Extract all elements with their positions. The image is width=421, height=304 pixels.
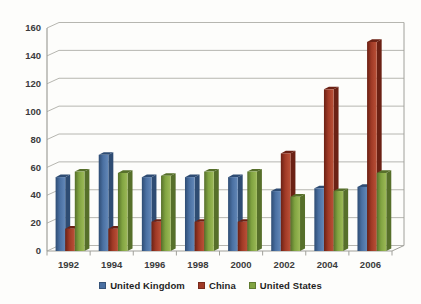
gridline-100	[47, 106, 404, 112]
x-tick-label-2002: 2002	[274, 259, 295, 270]
bar-china-2000	[238, 222, 248, 251]
x-tick-label-1996: 1996	[144, 259, 165, 270]
bar-united-states-2002-side	[300, 194, 305, 251]
x-tick-label-1998: 1998	[187, 259, 208, 270]
bar-united-kingdom-2004	[314, 188, 324, 251]
bar-united-states-2002	[290, 197, 300, 251]
bar-united-states-2006-side	[386, 170, 391, 251]
y-tick-label-0: 0	[36, 245, 41, 256]
gridline-120	[47, 78, 404, 84]
bar-united-states-1998	[204, 172, 214, 251]
y-tick-label-140: 140	[25, 50, 41, 61]
gridline-160	[47, 23, 404, 29]
bar-united-states-2000	[247, 172, 257, 251]
bar-china-2004	[324, 89, 334, 251]
bar-united-states-1996	[161, 176, 171, 251]
gridline-80	[47, 134, 404, 140]
y-tick-label-40: 40	[30, 189, 41, 200]
bar-united-kingdom-2002	[271, 191, 281, 251]
x-tick-label-2004: 2004	[317, 259, 339, 270]
bar-united-kingdom-1996	[142, 177, 152, 251]
bar-china-1992	[65, 229, 75, 251]
y-tick-label-80: 80	[30, 134, 41, 145]
legend-label-china: China	[209, 280, 236, 291]
bar-united-kingdom-1994	[99, 155, 109, 251]
x-tick-label-2006: 2006	[360, 259, 381, 270]
bar-china-1994	[108, 229, 118, 251]
bar-china-2006	[367, 42, 377, 251]
x-tick-label-2000: 2000	[230, 259, 251, 270]
legend-label-united-kingdom: United Kingdom	[110, 280, 185, 291]
x-tick-label-1994: 1994	[101, 259, 123, 270]
bar-united-kingdom-2006	[357, 187, 367, 251]
bar-united-states-1992-side	[84, 169, 89, 251]
chart-figure: 0204060801001201401601992199419961998200…	[0, 0, 421, 304]
gridline-140	[47, 50, 404, 56]
bar-united-kingdom-2000	[228, 177, 238, 251]
legend-label-united-states: United States	[260, 280, 322, 291]
floor-right-edge	[392, 246, 404, 252]
y-tick-label-120: 120	[25, 78, 41, 89]
y-tick-label-20: 20	[30, 217, 41, 228]
bar-united-kingdom-1998	[185, 177, 195, 251]
bar-united-states-1994	[118, 173, 128, 251]
bar-china-1998	[195, 222, 205, 251]
legend-swatch-china	[198, 282, 205, 289]
legend-swatch-united-kingdom	[99, 282, 106, 289]
bar-chart: 0204060801001201401601992199419961998200…	[0, 0, 421, 304]
y-tick-label-160: 160	[25, 22, 41, 33]
bar-united-states-2000-side	[257, 169, 262, 251]
y-tick-label-100: 100	[25, 106, 41, 117]
bar-united-states-1998-side	[214, 169, 219, 251]
bar-united-kingdom-1992	[56, 177, 66, 251]
bar-united-states-1996-side	[171, 173, 176, 251]
legend-item-china: China	[198, 280, 236, 291]
bar-united-states-2004	[334, 191, 344, 251]
chart-legend: United Kingdom China United States	[0, 280, 421, 291]
legend-swatch-united-states	[249, 282, 256, 289]
bar-united-states-1992	[75, 172, 85, 251]
bar-united-states-2004-side	[343, 188, 348, 251]
bar-united-states-2006	[377, 173, 387, 251]
x-tick-label-1992: 1992	[58, 259, 79, 270]
bar-china-1996	[151, 222, 161, 251]
bar-united-states-1994-side	[128, 170, 133, 251]
legend-item-united-states: United States	[249, 280, 322, 291]
y-tick-label-60: 60	[30, 162, 41, 173]
bar-china-2002	[281, 153, 291, 251]
legend-item-united-kingdom: United Kingdom	[99, 280, 185, 291]
